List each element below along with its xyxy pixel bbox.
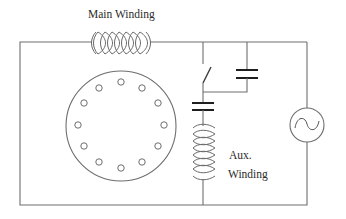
rotor-icon (66, 71, 176, 181)
main-winding-label: Main Winding (88, 8, 155, 21)
start-capacitor-icon (203, 42, 258, 92)
centrifugal-switch-icon (203, 42, 211, 103)
aux-label-line1: Aux. (229, 149, 252, 161)
ac-source-icon (290, 108, 324, 142)
main-winding-coil-icon (92, 32, 151, 54)
motor-circuit-diagram: Main Winding (0, 0, 346, 219)
aux-winding-coil-icon (193, 124, 215, 205)
run-capacitor-icon (192, 103, 214, 126)
aux-label-line2: Winding (228, 168, 268, 181)
